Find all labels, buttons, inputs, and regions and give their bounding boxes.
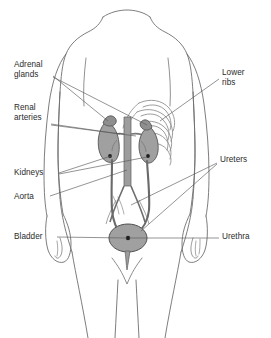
label-ureters: Ureters: [220, 155, 247, 165]
urethra-shape: [125, 251, 130, 270]
leg-right-outer: [165, 252, 181, 338]
hand-right-thumb: [191, 238, 198, 258]
arm-right-outer: [187, 54, 209, 216]
leader-ureters-b: [141, 164, 217, 231]
hand-right-finger-a: [195, 241, 196, 256]
hand-left-outline: [46, 214, 71, 262]
label-kidneys: Kidneys: [14, 168, 43, 178]
leader-adrenal-a: [53, 76, 108, 121]
aorta-trunk: [124, 117, 131, 186]
leg-left-outer: [72, 252, 88, 338]
leader-kidney-a: [59, 156, 111, 173]
arm-right-inner: [190, 92, 195, 214]
leader-aorta: [50, 170, 127, 196]
left-adrenal: [103, 116, 116, 126]
label-urethra: Urethra: [222, 232, 250, 242]
label-adrenal-glands: Adrenal glands: [14, 60, 43, 80]
abdomen-contour-left: [84, 58, 86, 106]
abdomen-contour-right: [168, 58, 170, 106]
arm-left-inner: [58, 92, 63, 214]
neck-outline: [103, 10, 150, 17]
hand-right-finger-b: [199, 239, 200, 254]
label-renal-arteries: Renal arteries: [14, 103, 42, 123]
leader-ureters-a: [131, 163, 217, 205]
label-aorta: Aorta: [14, 192, 34, 202]
leader-kidney-b: [59, 157, 147, 174]
label-lower-ribs: Lower ribs: [222, 68, 245, 88]
torso-right-outline: [150, 17, 195, 198]
urethra-tube: [125, 251, 130, 270]
leg-left-inner: [115, 280, 118, 338]
leader-lower-ribs: [160, 79, 219, 121]
leader-adrenal-b: [53, 77, 147, 125]
urinary-system-figure: Adrenal glands Renal arteries Kidneys Ao…: [0, 0, 271, 338]
hand-left-thumb: [55, 238, 62, 258]
hand-left-finger-crease: [57, 241, 58, 256]
leg-right-inner: [136, 280, 139, 338]
label-bladder: Bladder: [14, 232, 43, 242]
